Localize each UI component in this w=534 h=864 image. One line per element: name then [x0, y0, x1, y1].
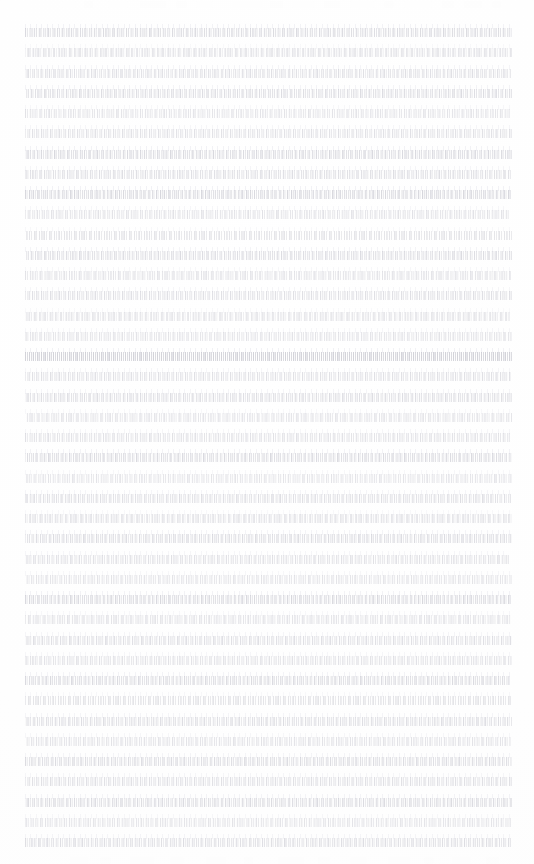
- footer-ghost-mark: [486, 857, 499, 864]
- document-text-line: [25, 251, 512, 260]
- text-line-glyph-run: [25, 453, 512, 462]
- text-line-glyph-run: [25, 433, 510, 442]
- text-line-glyph-run: [25, 89, 512, 98]
- text-line-glyph-run: [25, 251, 512, 260]
- document-text-line: [25, 757, 512, 766]
- document-text-line: [25, 69, 512, 78]
- document-text-line: [25, 514, 512, 523]
- text-line-glyph-run: [25, 231, 512, 240]
- page-header-band: [0, 0, 534, 9]
- text-line-glyph-run: [25, 615, 511, 624]
- document-text-line: [25, 291, 512, 300]
- text-line-glyph-run: [25, 676, 510, 685]
- header-ghost-mark: [464, 1, 482, 8]
- text-line-glyph-run: [25, 818, 511, 827]
- document-text-line: [25, 696, 512, 705]
- document-text-line: [25, 109, 512, 118]
- header-ghost-mark: [270, 1, 283, 8]
- header-ghost-mark: [292, 1, 314, 8]
- document-text-line: [25, 332, 512, 341]
- text-line-glyph-run: [25, 575, 512, 584]
- document-text-line: [25, 271, 512, 280]
- header-ghost-mark: [196, 1, 213, 8]
- text-line-glyph-run: [25, 717, 512, 726]
- text-line-glyph-run: [25, 757, 512, 766]
- text-line-glyph-run: [25, 48, 512, 57]
- text-line-glyph-run: [25, 312, 510, 321]
- document-text-line: [25, 190, 512, 199]
- text-line-glyph-run: [25, 555, 509, 564]
- text-line-glyph-run: [25, 514, 512, 523]
- document-text-line: [25, 838, 512, 847]
- document-text-line: [25, 210, 512, 219]
- footer-ghost-mark: [70, 857, 88, 864]
- header-ghost-mark: [350, 1, 374, 8]
- text-line-glyph-run: [25, 838, 512, 847]
- text-line-glyph-run: [25, 210, 509, 219]
- document-text-line: [25, 150, 512, 159]
- document-text-line: [25, 818, 512, 827]
- text-line-glyph-run: [25, 332, 512, 341]
- document-text-line: [25, 555, 512, 564]
- header-ghost-mark: [442, 1, 454, 8]
- document-text-line: [25, 28, 512, 37]
- header-ghost-mark: [176, 1, 187, 8]
- header-ghost-mark: [384, 1, 394, 8]
- text-line-glyph-run: [25, 656, 512, 665]
- text-line-glyph-run: [25, 150, 512, 159]
- footer-ghost-mark: [244, 857, 253, 864]
- header-ghost-mark: [232, 1, 262, 8]
- header-ghost-mark: [62, 1, 76, 8]
- document-text-line: [25, 48, 512, 57]
- text-line-glyph-run: [25, 271, 511, 280]
- document-text-line: [25, 737, 512, 746]
- document-text-line: [25, 717, 512, 726]
- text-line-glyph-run: [25, 372, 511, 381]
- text-line-glyph-run: [25, 636, 512, 645]
- footer-ghost-mark: [206, 857, 226, 864]
- footer-ghost-mark: [130, 857, 154, 864]
- text-line-glyph-run: [25, 352, 512, 361]
- footer-ghost-mark: [100, 857, 111, 864]
- document-text-line: [25, 615, 512, 624]
- text-line-glyph-run: [25, 777, 512, 786]
- document-text-line: [25, 494, 512, 503]
- document-text-line: [25, 393, 512, 402]
- text-line-glyph-run: [25, 69, 511, 78]
- text-line-glyph-run: [25, 494, 511, 503]
- document-text-line: [25, 636, 512, 645]
- text-line-glyph-run: [25, 534, 512, 543]
- document-text-line: [25, 433, 512, 442]
- document-text-line: [25, 595, 512, 604]
- text-line-glyph-run: [25, 474, 512, 483]
- header-ghost-mark: [108, 1, 128, 8]
- text-line-glyph-run: [25, 595, 512, 604]
- document-text-line: [25, 352, 512, 361]
- footer-ghost-mark: [350, 857, 367, 864]
- text-line-glyph-run: [25, 291, 512, 300]
- text-line-glyph-run: [25, 190, 512, 199]
- text-line-glyph-run: [25, 129, 512, 138]
- document-text-line: [25, 798, 512, 807]
- document-text-line: [25, 231, 512, 240]
- document-text-line: [25, 312, 512, 321]
- header-ghost-mark: [324, 1, 340, 8]
- document-text-line: [25, 170, 512, 179]
- document-text-line: [25, 89, 512, 98]
- footer-ghost-mark: [424, 857, 434, 864]
- document-text-line: [25, 453, 512, 462]
- text-line-glyph-run: [25, 696, 512, 705]
- footer-ghost-mark: [388, 857, 410, 864]
- text-line-glyph-run: [25, 798, 512, 807]
- document-text-line: [25, 534, 512, 543]
- footer-ghost-mark: [452, 857, 471, 864]
- text-line-glyph-run: [25, 413, 512, 422]
- page-footer-band: [0, 856, 534, 864]
- document-text-line: [25, 676, 512, 685]
- document-page: [0, 0, 534, 864]
- header-ghost-mark: [404, 1, 432, 8]
- footer-ghost-mark: [318, 857, 330, 864]
- document-text-line: [25, 413, 512, 422]
- header-ghost-mark: [492, 1, 501, 8]
- document-text-line: [25, 372, 512, 381]
